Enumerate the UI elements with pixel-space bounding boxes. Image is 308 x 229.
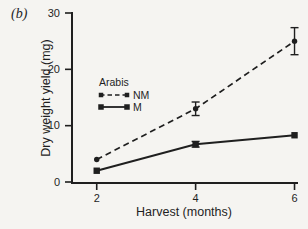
legend-marker-NM	[99, 93, 104, 98]
line-chart: 0102030246Harvest (months)Dry weight yie…	[0, 0, 308, 229]
axis-lines	[72, 13, 297, 183]
figure: (b) 0102030246Harvest (months)Dry weight…	[0, 0, 308, 229]
panel-label: (b)	[11, 6, 27, 22]
y-axis-tick-label: 30	[48, 7, 60, 19]
data-point-M	[192, 141, 198, 147]
legend-marker-M	[98, 104, 104, 110]
series-line-M	[97, 135, 295, 170]
data-point-M	[291, 132, 297, 138]
x-axis-tick-label: 2	[94, 192, 100, 204]
legend-entry-label-M: M	[133, 101, 142, 113]
data-point-M	[94, 168, 100, 174]
y-axis-title: Dry weight yield (mg)	[39, 39, 53, 156]
data-point-NM	[193, 106, 198, 111]
data-point-NM	[292, 38, 297, 43]
legend-entry-label-NM: NM	[133, 89, 149, 101]
legend-marker-NM	[125, 93, 130, 98]
x-axis-title: Harvest (months)	[136, 205, 232, 219]
data-point-NM	[94, 157, 99, 162]
legend-title: Arabis	[99, 76, 129, 88]
x-axis-tick-label: 4	[193, 192, 199, 204]
legend-marker-M	[124, 104, 130, 110]
y-axis-tick-label: 0	[54, 176, 60, 188]
x-axis-tick-label: 6	[291, 192, 297, 204]
